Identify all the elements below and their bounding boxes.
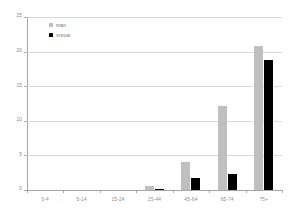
x-tick-mark (209, 190, 210, 193)
x-tick-label: 65-74 (209, 198, 245, 203)
x-tick-label: 25-44 (136, 198, 172, 203)
y-tick-label: 25 (2, 14, 22, 19)
legend-label-man: man (56, 23, 66, 28)
y-tick-label: 20 (2, 49, 22, 54)
x-tick-mark (63, 190, 64, 193)
bar-vrouw-65-74 (228, 174, 237, 190)
bar-group (254, 17, 273, 190)
x-tick-mark (282, 190, 283, 193)
gridline (27, 190, 282, 191)
bar-man-25-44 (145, 186, 154, 190)
legend: man vrouw (49, 21, 70, 41)
x-tick-label: 15-24 (100, 198, 136, 203)
x-tick-mark (136, 190, 137, 193)
legend-swatch-vrouw-icon (49, 33, 53, 37)
bar-group (36, 17, 55, 190)
bar-vrouw-45-64 (191, 178, 200, 190)
x-tick-mark (173, 190, 174, 193)
legend-item-vrouw: vrouw (49, 31, 70, 39)
bar-group (145, 17, 164, 190)
y-tick-label: 15 (2, 84, 22, 89)
bar-group (181, 17, 200, 190)
bar-man-75+ (254, 46, 263, 190)
bar-chart: 0510152025 0-45-1415-2425-4445-6465-7475… (0, 0, 289, 218)
x-tick-label: 5-14 (63, 198, 99, 203)
bar-group (72, 17, 91, 190)
legend-label-vrouw: vrouw (56, 33, 70, 38)
y-tick-label: 10 (2, 118, 22, 123)
x-tick-label: 0-4 (27, 198, 63, 203)
bars-layer (27, 17, 282, 190)
bar-man-45-64 (181, 162, 190, 190)
bar-vrouw-75+ (264, 60, 273, 190)
x-tick-mark (100, 190, 101, 193)
bar-man-65-74 (218, 106, 227, 190)
bar-vrouw-25-44 (155, 189, 164, 190)
x-tick-label: 75+ (246, 198, 282, 203)
legend-item-man: man (49, 21, 70, 29)
bar-group (218, 17, 237, 190)
y-tick-label: 5 (2, 153, 22, 158)
y-tick-label: 0 (2, 187, 22, 192)
legend-swatch-man-icon (49, 23, 53, 27)
x-tick-label: 45-64 (173, 198, 209, 203)
x-tick-mark (246, 190, 247, 193)
x-tick-mark (27, 190, 28, 193)
bar-group (109, 17, 128, 190)
